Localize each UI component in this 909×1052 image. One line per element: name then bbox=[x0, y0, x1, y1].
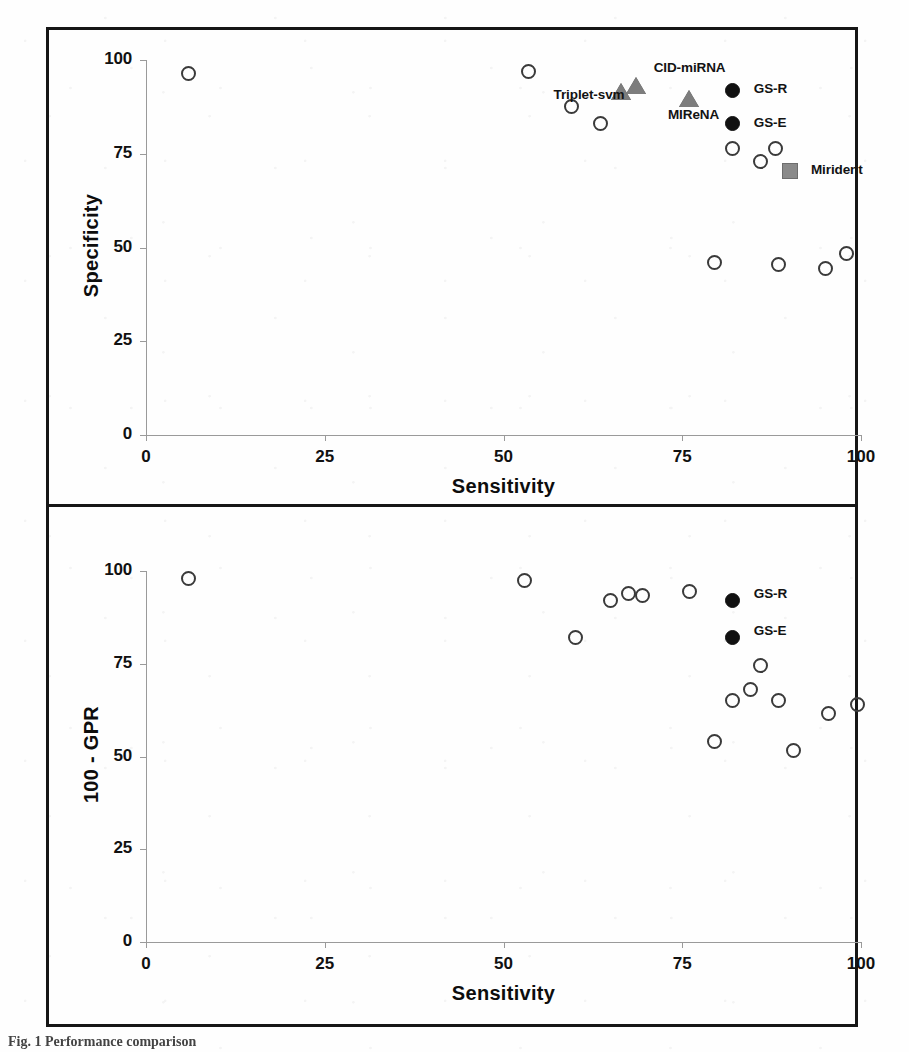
y-axis-tick bbox=[140, 341, 146, 342]
x-axis-tick bbox=[861, 435, 862, 441]
data-point-open-circle bbox=[564, 99, 579, 114]
data-point-open-circle bbox=[725, 693, 740, 708]
data-point-open-circle bbox=[707, 734, 722, 749]
data-point-open-circle bbox=[753, 658, 768, 673]
y-axis-tick bbox=[140, 571, 146, 572]
data-point-open-circle bbox=[743, 682, 758, 697]
data-point-open-circle bbox=[839, 246, 854, 261]
x-axis-tick bbox=[146, 942, 147, 948]
data-point-open-circle bbox=[682, 584, 697, 599]
data-point-open-circle bbox=[725, 141, 740, 156]
data-point-open-circle bbox=[603, 593, 618, 608]
x-axis-tick bbox=[682, 435, 683, 441]
data-point-open-circle bbox=[753, 154, 768, 169]
x-axis-tick bbox=[861, 942, 862, 948]
chart-annotation-label: GS-R bbox=[754, 81, 787, 96]
x-axis-tick-label: 25 bbox=[295, 954, 355, 974]
y-axis-tick bbox=[140, 664, 146, 665]
x-axis-tick bbox=[504, 435, 505, 441]
data-point-open-circle bbox=[707, 255, 722, 270]
x-axis-tick-label: 50 bbox=[474, 954, 534, 974]
x-axis-tick bbox=[325, 435, 326, 441]
y-axis-tick bbox=[140, 849, 146, 850]
data-point-square bbox=[782, 163, 798, 179]
data-point-open-circle bbox=[593, 116, 608, 131]
x-axis-tick bbox=[325, 942, 326, 948]
y-axis-tick-label: 100 bbox=[74, 560, 132, 580]
x-axis-tick-label: 0 bbox=[116, 954, 176, 974]
data-point-filled-circle bbox=[725, 83, 740, 98]
data-point-open-circle bbox=[621, 586, 636, 601]
chart-annotation-label: CID-miRNA bbox=[654, 60, 726, 75]
figure-frame: 02550751000255075100SpecificitySensitivi… bbox=[46, 27, 858, 1027]
chart-annotation-label: Triplet-svm bbox=[554, 87, 625, 102]
data-point-open-circle bbox=[517, 573, 532, 588]
data-point-open-circle bbox=[568, 630, 583, 645]
chart-annotation-label: GS-R bbox=[754, 586, 787, 601]
y-axis-tick-label: 100 bbox=[74, 49, 132, 69]
y-axis-title: Specificity bbox=[80, 145, 103, 345]
y-axis-tick bbox=[140, 60, 146, 61]
data-point-open-circle bbox=[181, 571, 196, 586]
data-point-filled-circle bbox=[725, 116, 740, 131]
chart-annotation-label: MIReNA bbox=[668, 107, 719, 122]
x-axis-tick bbox=[682, 942, 683, 948]
chart-panel-top: 02550751000255075100SpecificitySensitivi… bbox=[49, 30, 855, 504]
chart-annotation-label: GS-E bbox=[754, 623, 787, 638]
data-point-open-circle bbox=[521, 64, 536, 79]
data-point-triangle bbox=[679, 90, 699, 107]
x-axis-tick-label: 25 bbox=[295, 447, 355, 467]
data-point-open-circle bbox=[786, 743, 801, 758]
data-point-open-circle bbox=[821, 706, 836, 721]
data-point-filled-circle bbox=[725, 630, 740, 645]
x-axis-tick-label: 100 bbox=[831, 954, 891, 974]
x-axis-tick bbox=[504, 942, 505, 948]
data-point-open-circle bbox=[771, 693, 786, 708]
data-point-triangle bbox=[626, 77, 646, 94]
data-point-open-circle bbox=[635, 588, 650, 603]
y-axis-title: 100 - GPR bbox=[80, 654, 103, 854]
data-point-open-circle bbox=[768, 141, 783, 156]
data-point-open-circle bbox=[818, 261, 833, 276]
plot-area-top: 02550751000255075100SpecificitySensitivi… bbox=[146, 60, 861, 435]
y-axis-line bbox=[146, 571, 147, 942]
y-axis-line bbox=[146, 60, 147, 435]
figure-caption: Fig. 1 Performance comparison bbox=[8, 1034, 196, 1050]
x-axis-title: Sensitivity bbox=[146, 475, 861, 498]
x-axis-tick-label: 75 bbox=[652, 447, 712, 467]
x-axis-tick-label: 0 bbox=[116, 447, 176, 467]
data-point-open-circle bbox=[771, 257, 786, 272]
chart-panel-bottom: 02550751000255075100100 - GPRSensitivity… bbox=[49, 507, 855, 1027]
y-axis-tick-label: 0 bbox=[74, 931, 132, 951]
x-axis-tick-label: 75 bbox=[652, 954, 712, 974]
chart-annotation-label: GS-E bbox=[754, 115, 787, 130]
x-axis-tick-label: 100 bbox=[831, 447, 891, 467]
x-axis-tick bbox=[146, 435, 147, 441]
data-point-open-circle bbox=[181, 66, 196, 81]
x-axis-title: Sensitivity bbox=[146, 982, 861, 1005]
y-axis-tick bbox=[140, 248, 146, 249]
chart-annotation-label: Mirident bbox=[811, 162, 863, 177]
y-axis-tick bbox=[140, 154, 146, 155]
y-axis-tick bbox=[140, 757, 146, 758]
plot-area-bottom: 02550751000255075100100 - GPRSensitivity… bbox=[146, 571, 861, 942]
x-axis-tick-label: 50 bbox=[474, 447, 534, 467]
data-point-filled-circle bbox=[725, 593, 740, 608]
data-point-open-circle bbox=[850, 697, 865, 712]
y-axis-tick-label: 0 bbox=[74, 424, 132, 444]
